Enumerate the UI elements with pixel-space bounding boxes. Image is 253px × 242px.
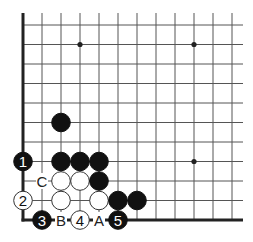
- star-point: [77, 42, 82, 47]
- white-stone: 2: [14, 191, 33, 210]
- star-point: [191, 159, 196, 164]
- white-stone: [52, 191, 71, 210]
- point-label: B: [56, 212, 66, 229]
- black-stone: [52, 152, 71, 171]
- black-stone: [90, 152, 109, 171]
- move-number: 5: [114, 212, 122, 229]
- go-board-diagram: CBA 12345: [0, 0, 253, 242]
- black-stone: 1: [14, 152, 33, 171]
- black-stone: [90, 172, 109, 191]
- black-stone: 5: [109, 211, 128, 230]
- move-number: 1: [19, 153, 27, 170]
- black-stone: [128, 191, 147, 210]
- black-stone: [71, 152, 90, 171]
- black-stone: 3: [33, 211, 52, 230]
- black-stone: [109, 191, 128, 210]
- move-number: 3: [38, 212, 46, 229]
- white-stone: [52, 172, 71, 191]
- point-label: A: [94, 212, 104, 229]
- white-stone: [90, 191, 109, 210]
- black-stone: [52, 113, 71, 132]
- point-label: C: [37, 173, 48, 190]
- white-stone: [71, 172, 90, 191]
- move-number: 2: [19, 192, 27, 209]
- star-point: [191, 42, 196, 47]
- move-number: 4: [76, 212, 84, 229]
- white-stone: 4: [71, 211, 90, 230]
